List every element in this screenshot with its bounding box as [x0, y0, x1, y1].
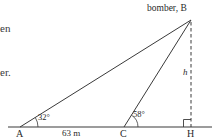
vertex-label-c: C	[120, 129, 127, 139]
margin-text-line-1: en	[0, 23, 10, 34]
angle-label-c: 58°	[133, 110, 145, 119]
right-angle-marker-h	[184, 120, 192, 128]
distance-label-ac: 63 m	[62, 129, 80, 138]
margin-text-line-2: er.	[0, 67, 11, 78]
geometry-figure: bomber, B A C H 32° 58° 63 m h en er.	[0, 0, 220, 140]
vertex-label-h: H	[187, 129, 194, 139]
vertex-label-a: A	[16, 129, 23, 139]
segment-a-b	[20, 20, 191, 127]
height-label-h: h	[183, 68, 188, 77]
apex-label-bomber: bomber, B	[147, 4, 187, 14]
angle-label-a: 32°	[38, 113, 50, 122]
